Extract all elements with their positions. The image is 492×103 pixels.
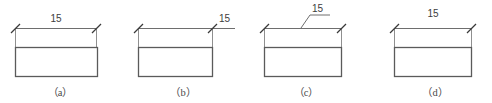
- panel-b-drawing: 15 （b）: [123, 0, 246, 103]
- panel-b: 15 （b）: [123, 0, 246, 103]
- panel-d: 15 （d）: [369, 0, 492, 103]
- panel-c: 15 （c）: [246, 0, 369, 103]
- panel-caption-c: （c）: [294, 87, 319, 98]
- panel-d-drawing: 15 （d）: [369, 0, 492, 103]
- part-rectangle: [265, 48, 342, 77]
- part-rectangle: [395, 48, 472, 77]
- panel-a-drawing: 15 （a）: [0, 0, 123, 103]
- panel-a: 15 （a）: [0, 0, 123, 103]
- part-rectangle: [139, 48, 213, 77]
- panel-caption-b: （b）: [170, 87, 195, 98]
- dimension-value-label: 15: [427, 8, 439, 19]
- technical-drawing-figure: 15 （a） 15 （b）: [0, 0, 492, 103]
- dimension-value-label: 15: [219, 13, 231, 24]
- panel-caption-a: （a）: [48, 87, 73, 98]
- panel-caption-d: （d）: [422, 87, 447, 98]
- part-rectangle: [16, 48, 98, 77]
- leader-line: [301, 15, 330, 28]
- dimension-value-label: 15: [50, 13, 62, 24]
- panel-c-drawing: 15 （c）: [246, 0, 369, 103]
- dimension-value-label: 15: [312, 3, 324, 14]
